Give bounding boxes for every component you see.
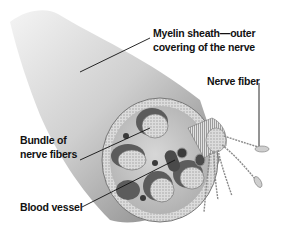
label-blood-vessel: Blood vessel — [20, 200, 82, 214]
label-bundle-line1: Bundle of — [20, 133, 77, 147]
nerve-fiber-tips — [252, 146, 269, 189]
bundle-bottom-left — [116, 180, 140, 200]
label-myelin-line2: covering of the nerve — [153, 40, 255, 54]
label-bundle-of-nerve-fibers: Bundle of nerve fibers — [20, 133, 77, 161]
label-nerve-fiber: Nerve fiber — [207, 74, 260, 88]
nerve-diagram: Myelin sheath—outer covering of the nerv… — [0, 0, 281, 231]
label-myelin-line1: Myelin sheath—outer — [153, 26, 255, 40]
label-bundle-line2: nerve fibers — [20, 147, 77, 161]
label-myelin-sheath: Myelin sheath—outer covering of the nerv… — [153, 26, 255, 54]
